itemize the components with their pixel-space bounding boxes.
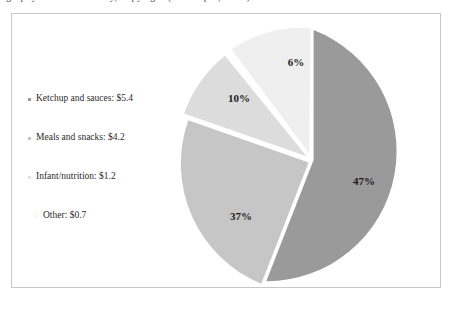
legend-item-label: Other: $0.7 xyxy=(43,211,86,221)
legend-item-label: Ketchup and sauces: $5.4 xyxy=(36,94,133,104)
legend-item-label: Infant/nutrition: $1.2 xyxy=(36,172,116,182)
clipped-caption: graphy and bureaucracy, copyright (see J… xyxy=(0,0,454,3)
pie-label-infant-nutrition: 10% xyxy=(228,92,250,104)
legend-swatch-icon xyxy=(28,137,31,140)
legend-swatch-icon xyxy=(35,215,38,218)
pie-label-meals-and-snacks: 37% xyxy=(230,210,252,222)
pie-label-other: 6% xyxy=(288,56,305,68)
pie-chart: 47% 37% 10% 6% xyxy=(162,28,442,290)
chart-frame: Ketchup and sauces: $5.4 Meals and snack… xyxy=(11,13,441,288)
legend-swatch-icon xyxy=(28,176,31,179)
pie-label-ketchup-and-sauces: 47% xyxy=(353,175,375,187)
chart-page: graphy and bureaucracy, copyright (see J… xyxy=(0,0,454,327)
clipped-caption-text: graphy and bureaucracy, copyright (see J… xyxy=(0,0,454,2)
legend-swatch-icon xyxy=(28,98,31,101)
legend-item-label: Meals and snacks: $4.2 xyxy=(36,133,125,143)
pie-svg: 47% 37% 10% 6% xyxy=(162,28,442,290)
